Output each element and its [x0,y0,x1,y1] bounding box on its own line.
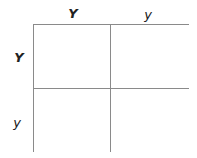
row-allele-label-Y: Y [14,51,23,64]
column-allele-label-y: y [144,8,152,21]
column-allele-label-Y: Y [68,7,77,20]
cell-Yy-top-right [111,25,189,89]
punnett-grid [33,24,189,152]
cell-YY [34,25,111,89]
cell-yY-bottom-left [34,89,111,152]
row-allele-label-y: y [13,116,21,129]
cell-yy [111,89,189,152]
